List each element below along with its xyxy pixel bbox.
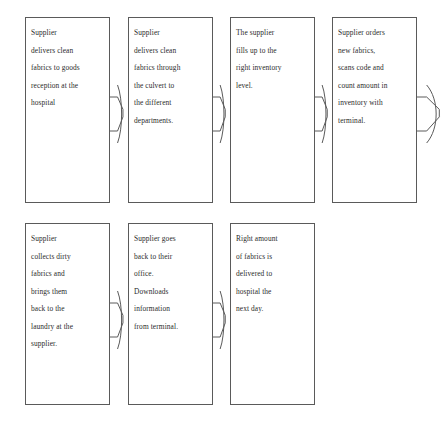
box-text-line: back to the [31, 300, 109, 318]
box-text-line: fabrics and [31, 265, 109, 283]
box-text-line: Right amount [236, 230, 314, 248]
box-text-line: delivered to [236, 265, 314, 283]
connector-row2-box1-to-box2 [110, 291, 128, 349]
box-text-line: delivers clean [31, 42, 109, 60]
box-text-line: from terminal. [134, 318, 212, 336]
box-text-line: hospital the [236, 283, 314, 301]
box-text-line: Supplier orders [338, 24, 416, 42]
box-text-line: reception at the [31, 77, 109, 95]
box-text-line: the different [134, 94, 212, 112]
box-text-line: right inventory [236, 59, 314, 77]
box-text-line: Downloads [134, 283, 212, 301]
connector-row1-box1-to-box2 [110, 85, 128, 143]
box-text-line: Supplier [31, 24, 109, 42]
box-text-line: scans code and [338, 59, 416, 77]
box-supplier-downloads-information: Supplier goesback to theiroffice.Downloa… [128, 223, 213, 405]
connector-row1-box3-to-box4 [315, 85, 332, 143]
box-text-line: back to their [134, 248, 212, 266]
box-text-line: new fabrics, [338, 42, 416, 60]
box-text-line: terminal. [338, 112, 416, 130]
box-text-line: fabrics to goods [31, 59, 109, 77]
box-text-line: supplier. [31, 335, 109, 353]
box-text-line: laundry at the [31, 318, 109, 336]
box-text-line: Supplier goes [134, 230, 212, 248]
box-text-line: the culvert to [134, 77, 212, 95]
box-supplier-delivers-clean-fabrics-reception: Supplierdelivers cleanfabrics to goodsre… [25, 17, 110, 203]
box-text-line: departments. [134, 112, 212, 130]
box-text-line: Supplier [134, 24, 212, 42]
box-text-line: brings them [31, 283, 109, 301]
box-text-line: fabrics through [134, 59, 212, 77]
box-text-line: inventory with [338, 94, 416, 112]
connector-row1-box2-to-box3 [213, 85, 230, 143]
box-supplier-collects-dirty-fabrics: Suppliercollects dirtyfabrics andbrings … [25, 223, 110, 405]
box-text-line: next day. [236, 300, 314, 318]
box-text-line: level. [236, 77, 314, 95]
flowchart-canvas: Supplierdelivers cleanfabrics to goodsre… [0, 0, 446, 421]
box-text-line: information [134, 300, 212, 318]
box-right-amount-delivered-next-day: Right amountof fabrics isdelivered tohos… [230, 223, 315, 405]
box-text-line: collects dirty [31, 248, 109, 266]
box-text-line: fills up to the [236, 42, 314, 60]
box-text-line: office. [134, 265, 212, 283]
box-text-line: delivers clean [134, 42, 212, 60]
box-supplier-delivers-through-culvert: Supplierdelivers cleanfabrics throughthe… [128, 17, 213, 203]
box-text-line: The supplier [236, 24, 314, 42]
box-text-line: count amount in [338, 77, 416, 95]
box-supplier-fills-inventory-level: The supplierfills up to theright invento… [230, 17, 315, 203]
connector-row1-box4-to-right-edge [417, 85, 440, 143]
box-text-line: of fabrics is [236, 248, 314, 266]
box-text-line: hospital [31, 94, 109, 112]
box-text-line: Supplier [31, 230, 109, 248]
box-supplier-orders-scans-counts: Supplier ordersnew fabrics,scans code an… [332, 17, 417, 203]
connector-row2-box2-to-box3 [213, 291, 230, 349]
